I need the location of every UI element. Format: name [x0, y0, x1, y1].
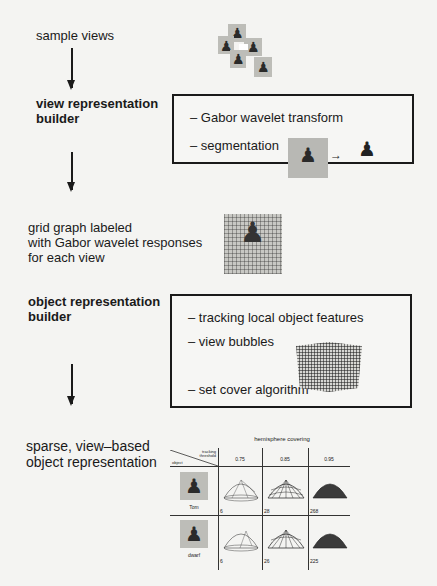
grid-graph-image: ♟: [224, 214, 282, 274]
figure-icon: ♟: [231, 52, 245, 66]
hemisphere-dense-icon: [311, 526, 349, 552]
object-builder-box: – tracking local object features – view …: [170, 294, 412, 408]
sample-views-label: sample views: [36, 28, 114, 43]
view-count: 6: [220, 508, 223, 514]
tracking-features-item: – tracking local object features: [188, 310, 364, 325]
figure-icon: ♟: [296, 148, 320, 162]
object-name: dwarf: [170, 552, 218, 558]
hemisphere-medium-icon: [266, 476, 306, 502]
figure-icon: ♟: [184, 476, 204, 496]
hemisphere-dense-icon: [311, 476, 349, 502]
figure-icon: ♟: [246, 40, 260, 54]
threshold-header: 0.75: [218, 456, 262, 462]
segmented-figure-icon: ♟: [355, 142, 379, 156]
threshold-header: 0.85: [262, 456, 308, 462]
hemisphere-sparse-icon: [222, 526, 260, 552]
down-arrow-icon: [71, 364, 73, 404]
down-arrow-icon: [71, 48, 73, 88]
view-count: 6: [220, 558, 223, 564]
figure-icon: ♟: [184, 524, 204, 544]
gabor-transform-item: – Gabor wavelet transform: [190, 110, 343, 125]
object-name: Tom: [170, 504, 218, 510]
output-label: sparse, view–based object representation: [26, 438, 157, 470]
segmentation-item: – segmentation: [190, 138, 279, 153]
view-count: 268: [310, 508, 318, 514]
grid-graph-label: grid graph labeled with Gabor wavelet re…: [28, 220, 202, 265]
view-count: 225: [310, 558, 318, 564]
view-count: 28: [264, 508, 270, 514]
figure-icon: ♟: [236, 226, 268, 240]
set-cover-item: – set cover algorithm: [188, 382, 309, 397]
view-builder-title: view representation builder: [36, 96, 158, 126]
view-bubble-image: [296, 342, 362, 392]
hemisphere-medium-icon: [266, 526, 306, 552]
object-image-tom: ♟: [180, 472, 208, 500]
object-image-dwarf: ♟: [180, 520, 208, 548]
view-bubbles-item: – view bubbles: [188, 334, 274, 349]
table-title: hemisphere covering: [232, 436, 332, 442]
figure-icon: ♟: [256, 60, 270, 74]
tracking-threshold-header: tracking threshold: [194, 450, 216, 458]
sample-views-image: ♟ ♟ ♟ ♟ ♟: [218, 24, 284, 80]
view-count: 26: [264, 558, 270, 564]
hemisphere-sparse-icon: [222, 476, 260, 502]
segmentation-input-image: ♟: [288, 138, 328, 178]
down-arrow-icon: [71, 152, 73, 190]
arrow-right-icon: →: [330, 148, 342, 162]
hemisphere-covering-table: hemisphere covering tracking threshold o…: [170, 436, 350, 576]
object-builder-title: object representation builder: [28, 294, 160, 324]
threshold-header: 0.95: [308, 456, 350, 462]
